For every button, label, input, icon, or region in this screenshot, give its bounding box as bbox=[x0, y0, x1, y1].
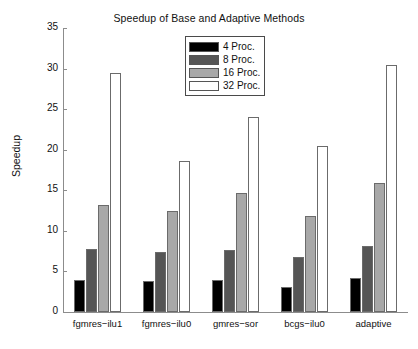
bar-group bbox=[281, 28, 328, 312]
x-tick-label: fgmres−ilu1 bbox=[63, 318, 132, 329]
y-tick-label: 20 bbox=[30, 143, 58, 154]
legend-swatch bbox=[189, 81, 219, 91]
chart-legend: 4 Proc.8 Proc.16 Proc.32 Proc. bbox=[185, 36, 265, 96]
legend-swatch bbox=[189, 42, 219, 52]
legend-label: 8 Proc. bbox=[223, 54, 255, 65]
y-tick-label: 15 bbox=[30, 183, 58, 194]
bar bbox=[386, 65, 397, 312]
bar-group bbox=[143, 28, 190, 312]
legend-item: 32 Proc. bbox=[189, 79, 260, 92]
legend-swatch bbox=[189, 68, 219, 78]
legend-swatch bbox=[189, 55, 219, 65]
bar bbox=[224, 250, 235, 312]
bar bbox=[155, 252, 166, 312]
bar bbox=[317, 146, 328, 312]
bar bbox=[305, 216, 316, 312]
bar bbox=[179, 161, 190, 312]
chart-figure: Speedup of Base and Adaptive Methods 051… bbox=[0, 0, 418, 349]
bar bbox=[350, 278, 361, 312]
y-tick-label: 35 bbox=[30, 21, 58, 32]
bar-group bbox=[74, 28, 121, 312]
legend-item: 4 Proc. bbox=[189, 40, 260, 53]
bar bbox=[98, 205, 109, 312]
bar bbox=[293, 257, 304, 312]
bar bbox=[110, 73, 121, 312]
chart-title: Speedup of Base and Adaptive Methods bbox=[0, 12, 418, 24]
legend-label: 4 Proc. bbox=[223, 41, 255, 52]
legend-label: 16 Proc. bbox=[223, 67, 260, 78]
bar bbox=[212, 280, 223, 312]
legend-item: 8 Proc. bbox=[189, 53, 260, 66]
x-tick-label: gmres−sor bbox=[201, 318, 270, 329]
bar bbox=[74, 280, 85, 312]
bar bbox=[143, 281, 154, 312]
y-tick-label: 30 bbox=[30, 62, 58, 73]
bar bbox=[86, 249, 97, 312]
bar bbox=[167, 211, 178, 312]
x-tick-label: adaptive bbox=[339, 318, 408, 329]
bar-group bbox=[350, 28, 397, 312]
x-tick-label: bcgs−ilu0 bbox=[270, 318, 339, 329]
x-tick-label: fgmres−ilu0 bbox=[132, 318, 201, 329]
bar bbox=[362, 246, 373, 312]
y-tick-label: 0 bbox=[30, 305, 58, 316]
bar bbox=[236, 193, 247, 312]
y-axis-label: Speedup bbox=[10, 116, 22, 196]
x-axis-line bbox=[63, 312, 408, 313]
bar bbox=[374, 183, 385, 312]
y-tick-label: 5 bbox=[30, 264, 58, 275]
legend-item: 16 Proc. bbox=[189, 66, 260, 79]
y-tick-label: 10 bbox=[30, 224, 58, 235]
bar bbox=[248, 117, 259, 312]
y-tick-mark bbox=[63, 312, 67, 313]
legend-label: 32 Proc. bbox=[223, 80, 260, 91]
y-tick-label: 25 bbox=[30, 102, 58, 113]
bar bbox=[281, 287, 292, 312]
